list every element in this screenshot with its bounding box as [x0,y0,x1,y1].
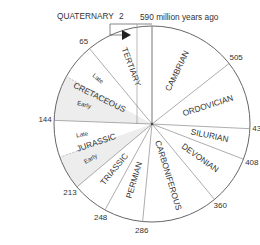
age-label-408: 408 [245,158,259,167]
period-label-silurian: SILURIAN [190,126,230,144]
age-label-286: 286 [135,226,149,235]
age-label-590: 590 million years ago [140,12,219,22]
period-label-quaternary: QUATERNARY [57,11,114,21]
subdivision-label-cretaceous-late: Late [91,72,105,85]
period-labels: TERTIARYCRETACEOUSLateEarlyJURASSICLateE… [72,46,234,212]
geologic-time-clock-diagram: TERTIARYCRETACEOUSLateEarlyJURASSICLateE… [0,0,260,245]
period-label-carboniferous: CARBONIFEROUS [153,139,184,212]
period-label-ordovician: ORDOVICIAN [181,93,234,119]
period-label-devonian: DEVONIAN [180,141,221,174]
age-label-360: 360 [214,201,228,210]
age-label-213: 213 [63,188,77,197]
diagram-canvas: TERTIARYCRETACEOUSLateEarlyJURASSICLateE… [0,0,260,245]
subdivision-label-jurassic-late: Late [76,130,90,139]
quaternary-callout: QUATERNARY2 [57,11,152,40]
age-label-2: 2 [119,11,124,21]
age-label-438: 438 [252,124,260,133]
arrow-right-icon [122,30,131,40]
age-label-144: 144 [38,115,52,124]
age-label-505: 505 [229,53,243,62]
period-label-permian: PERMIAN [124,160,145,199]
age-label-248: 248 [94,213,108,222]
center-pivot [151,123,153,125]
age-label-65: 65 [79,37,88,46]
period-label-tertiary: TERTIARY [120,46,144,88]
period-label-cambrian: CAMBRIAN [163,49,191,93]
